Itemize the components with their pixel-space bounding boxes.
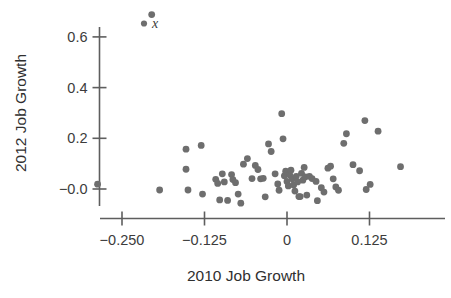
data-points [94, 11, 404, 206]
data-point [198, 142, 205, 149]
data-point [183, 146, 190, 153]
x-tick-label: −0.125 [182, 232, 227, 248]
data-point [255, 166, 262, 173]
y-axis-title: 2012 Job Growth [12, 54, 29, 172]
data-point [185, 187, 192, 194]
data-point [330, 175, 337, 182]
data-point [272, 170, 279, 177]
y-axis: 0.60.40.2−0.0 [59, 27, 107, 206]
scatter-plot-figure: 0.60.40.2−0.0 −0.250−0.12500.125 x 2010 … [0, 0, 451, 298]
data-point [199, 191, 206, 198]
data-point [235, 191, 242, 198]
data-point [375, 128, 382, 135]
data-point [321, 189, 328, 196]
data-point [301, 164, 308, 171]
x-tick-label: 0.125 [351, 232, 387, 248]
data-point [244, 155, 251, 162]
data-point [292, 188, 299, 195]
data-point [94, 181, 101, 188]
data-point [313, 178, 320, 185]
data-point [276, 187, 283, 194]
data-point [340, 140, 347, 147]
data-point [240, 161, 247, 168]
x-axis-ticks: −0.250−0.12500.125 [100, 212, 388, 248]
legend: x [141, 16, 159, 31]
data-point [156, 187, 163, 194]
data-point [274, 181, 281, 188]
data-point [268, 148, 275, 155]
x-tick-label: −0.250 [100, 232, 145, 248]
data-point [214, 180, 221, 187]
data-point [350, 161, 357, 168]
y-tick-label: 0.6 [67, 29, 87, 45]
data-point [288, 167, 295, 174]
data-point [221, 179, 228, 186]
data-point [361, 117, 368, 124]
data-point [260, 175, 267, 182]
data-point [265, 140, 272, 147]
data-point [297, 193, 304, 200]
x-tick-label: 0 [283, 232, 291, 248]
data-point [335, 187, 342, 194]
data-point [280, 135, 287, 142]
data-point [314, 197, 321, 204]
data-point [356, 167, 363, 174]
legend-label: x [151, 16, 159, 31]
data-point [224, 197, 231, 204]
data-point [232, 179, 239, 186]
data-point [303, 192, 310, 199]
data-point [367, 181, 374, 188]
data-point [183, 166, 190, 173]
data-point [397, 163, 404, 170]
data-point [262, 193, 269, 200]
y-tick-label: −0.0 [59, 181, 88, 197]
data-point [219, 170, 226, 177]
data-point [343, 130, 350, 137]
legend-marker-icon [141, 20, 147, 26]
x-axis-title: 2010 Job Growth [187, 267, 305, 284]
y-tick-label: 0.2 [67, 130, 87, 146]
data-point [216, 197, 223, 204]
plot-canvas: 0.60.40.2−0.0 −0.250−0.12500.125 x 2010 … [0, 0, 451, 298]
data-point [249, 175, 256, 182]
data-point [278, 110, 285, 117]
data-point [327, 163, 334, 170]
x-axis: −0.250−0.12500.125 [100, 212, 445, 248]
data-point [237, 200, 244, 207]
y-tick-label: 0.4 [67, 80, 87, 96]
